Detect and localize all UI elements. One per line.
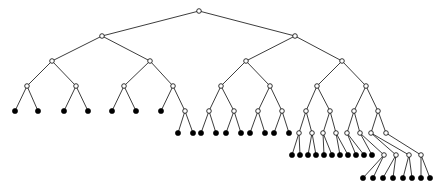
tree-edge [282,111,289,133]
tree-edge [409,155,412,178]
tree-edge [185,111,193,133]
tree-edge [360,133,384,155]
tree-edge [354,86,366,111]
tree-edge [295,36,342,61]
tree-leaf-node [35,108,40,113]
tree-leaf-node [313,152,318,157]
tree-edge [27,86,38,111]
tree-internal-node [244,59,249,64]
edge-layer [15,11,430,178]
tree-internal-node [256,109,261,114]
tree-internal-node [280,109,285,114]
tree-leaf-node [213,130,218,135]
tree-internal-node [50,59,55,64]
tree-internal-node [100,34,105,39]
tree-edge [246,61,270,86]
tree-internal-node [74,84,79,89]
tree-edge [52,61,76,86]
tree-edge [150,61,173,86]
tree-internal-node [345,131,350,136]
tree-edge [323,111,330,133]
tree-edge [292,133,299,155]
tree-edge [246,36,295,61]
tree-edge [347,111,354,133]
tree-internal-node [376,109,381,114]
tree-internal-node [352,109,357,114]
tree-edge [371,133,396,155]
tree-leaf-node [297,152,302,157]
tree-internal-node [334,131,339,136]
tree-leaf-node [390,175,395,180]
tree-edge [161,86,173,111]
tree-leaf-node [223,130,228,135]
tree-internal-node [25,84,30,89]
tree-edge [270,86,282,111]
tree-leaf-node [345,152,350,157]
tree-internal-node [358,131,363,136]
tree-edge [299,133,300,155]
tree-edge [306,86,317,111]
tree-internal-node [197,9,202,14]
tree-internal-node [419,153,424,158]
tree-edge [299,111,306,133]
tree-edge [234,111,241,133]
tree-leaf-node [198,130,203,135]
tree-leaf-node [353,152,358,157]
tree-internal-node [328,109,333,114]
tree-edge [373,155,384,178]
tree-edge [342,61,366,86]
tree-internal-node [293,34,298,39]
tree-edge [258,86,270,111]
tree-edge [378,111,386,133]
tree-leaf-node [238,130,243,135]
tree-edge [403,155,409,178]
tree-leaf-node [360,175,365,180]
tree-edge [323,133,332,155]
tree-edge [308,133,312,155]
tree-leaf-node [380,175,385,180]
tree-edge [201,111,209,133]
tree-internal-node [310,131,315,136]
tree-edge [209,111,216,133]
tree-internal-node [219,84,224,89]
tree-leaf-node [370,175,375,180]
tree-edge [312,133,316,155]
tree-leaf-node [271,130,276,135]
tree-leaf-node [369,152,374,157]
tree-edge [27,61,52,86]
tree-edge [173,86,185,111]
tree-edge [371,111,378,133]
tree-edge [102,11,199,36]
tree-internal-node [364,84,369,89]
tree-internal-node [315,84,320,89]
tree-edge [226,111,234,133]
tree-edge [221,61,246,86]
tree-edge [330,111,336,133]
tree-diagram-figure [0,0,436,196]
tree-leaf-node [12,108,17,113]
tree-edge [317,86,330,111]
tree-leaf-node [337,152,342,157]
tree-canvas [0,0,436,196]
tree-edge [317,61,342,86]
tree-leaf-node [247,130,252,135]
tree-edge [274,111,282,133]
tree-edge [323,133,324,155]
tree-internal-node [232,109,237,114]
tree-leaf-node [190,130,195,135]
tree-edge [209,86,221,111]
tree-edge [15,86,27,111]
tree-leaf-node [329,152,334,157]
tree-edge [124,86,136,111]
tree-internal-node [382,153,387,158]
tree-internal-node [171,84,176,89]
tree-edge [366,86,378,111]
tree-edge [347,133,356,155]
tree-leaf-node [321,152,326,157]
tree-edge [199,11,295,36]
tree-edge [221,86,234,111]
tree-internal-node [369,131,374,136]
tree-leaf-node [286,130,291,135]
tree-internal-node [304,109,309,114]
tree-leaf-node [175,130,180,135]
